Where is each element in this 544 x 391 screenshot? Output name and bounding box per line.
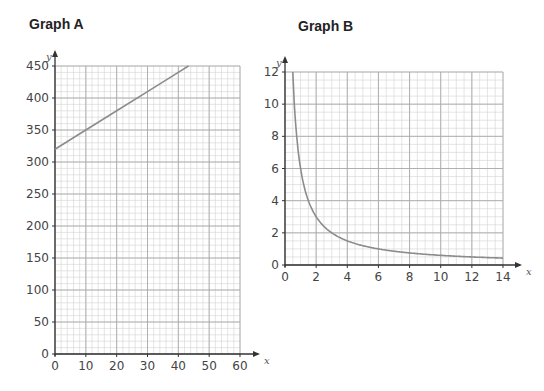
x-arrow-icon bbox=[515, 262, 522, 268]
x-tick-label: 40 bbox=[171, 359, 186, 373]
charts-canvas: 0102030405060050100150200250300350400450… bbox=[0, 0, 544, 391]
graph-a-grid bbox=[55, 66, 240, 354]
y-tick-label: 200 bbox=[26, 219, 49, 233]
graph-a-series-line bbox=[55, 66, 189, 149]
x-tick-label: 30 bbox=[140, 359, 155, 373]
x-tick-label: 50 bbox=[202, 359, 217, 373]
y-arrow-icon bbox=[282, 56, 288, 63]
x-axis-label: x bbox=[526, 266, 532, 277]
y-tick-label: 4 bbox=[271, 194, 279, 208]
graph-b-grid bbox=[285, 72, 503, 265]
x-axis-label: x bbox=[264, 355, 270, 366]
y-tick-label: 2 bbox=[271, 226, 279, 240]
x-tick-label: 12 bbox=[464, 270, 479, 284]
graph-a: 0102030405060050100150200250300350400450… bbox=[26, 50, 270, 373]
x-tick-label: 0 bbox=[281, 270, 289, 284]
y-tick-label: 6 bbox=[271, 162, 279, 176]
y-tick-label: 250 bbox=[26, 187, 49, 201]
x-tick-label: 14 bbox=[495, 270, 510, 284]
y-tick-label: 400 bbox=[26, 91, 49, 105]
x-tick-label: 6 bbox=[375, 270, 383, 284]
y-tick-label: 50 bbox=[34, 315, 49, 329]
y-tick-label: 100 bbox=[26, 283, 49, 297]
y-axis-label: y bbox=[45, 51, 52, 62]
x-tick-label: 4 bbox=[343, 270, 351, 284]
x-tick-label: 60 bbox=[232, 359, 247, 373]
x-tick-label: 20 bbox=[109, 359, 124, 373]
y-arrow-icon bbox=[52, 50, 58, 57]
y-tick-label: 150 bbox=[26, 251, 49, 265]
x-tick-label: 10 bbox=[433, 270, 448, 284]
x-arrow-icon bbox=[253, 351, 260, 357]
x-tick-label: 8 bbox=[406, 270, 414, 284]
x-tick-label: 0 bbox=[51, 359, 59, 373]
y-axis-label: y bbox=[275, 57, 282, 68]
x-tick-label: 10 bbox=[78, 359, 93, 373]
graph-b: 02468101214024681012xy bbox=[264, 56, 532, 284]
y-tick-label: 300 bbox=[26, 155, 49, 169]
y-tick-label: 0 bbox=[41, 347, 49, 361]
y-tick-label: 350 bbox=[26, 123, 49, 137]
x-tick-label: 2 bbox=[312, 270, 320, 284]
y-tick-label: 0 bbox=[271, 258, 279, 272]
y-tick-label: 8 bbox=[271, 129, 279, 143]
y-tick-label: 10 bbox=[264, 97, 279, 111]
